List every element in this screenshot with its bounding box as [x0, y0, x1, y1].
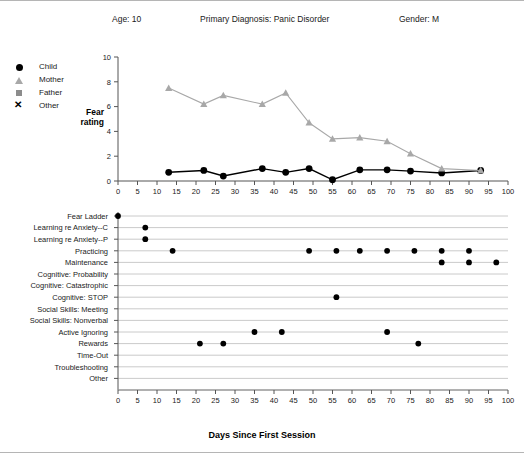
session-point — [415, 341, 421, 347]
x-tick-label: 20 — [192, 396, 200, 405]
x-tick-label: 60 — [348, 396, 356, 405]
session-point — [493, 260, 499, 266]
session-point — [142, 236, 148, 242]
data-point-child — [165, 169, 172, 176]
data-point-child — [220, 173, 227, 180]
session-point — [197, 341, 203, 347]
category-label: Rewards — [78, 339, 108, 348]
bottom-border — [0, 452, 524, 453]
session-point — [252, 329, 258, 335]
data-point-child — [384, 166, 391, 173]
category-label: Learning re Anxiety--C — [33, 223, 108, 232]
x-tick-label: 70 — [387, 187, 395, 196]
session-point — [439, 260, 445, 266]
category-label: Social Skills: Nonverbal — [30, 316, 109, 325]
x-tick-label: 100 — [502, 396, 515, 405]
data-point-child — [282, 169, 289, 176]
x-tick-label: 50 — [309, 187, 317, 196]
x-tick-label: 55 — [328, 396, 336, 405]
session-point — [142, 225, 148, 231]
category-label: Learning re Anxiety--P — [34, 235, 108, 244]
session-point — [439, 248, 445, 254]
series-line-child — [169, 169, 481, 180]
x-tick-label: 85 — [445, 187, 453, 196]
category-label: Cognitive: Probability — [38, 270, 109, 279]
x-tick-label: 25 — [211, 396, 219, 405]
x-tick-label: 0 — [116, 187, 120, 196]
session-point — [170, 248, 176, 254]
session-point — [220, 341, 226, 347]
x-tick-label: 0 — [116, 396, 120, 405]
x-tick-label: 15 — [172, 187, 180, 196]
category-label: Time-Out — [77, 351, 109, 360]
series-line-mother — [169, 88, 481, 170]
x-tick-label: 40 — [270, 396, 278, 405]
category-label: Social Skills: Meeting — [37, 305, 108, 314]
data-point-child — [329, 176, 336, 183]
x-tick-label: 80 — [426, 396, 434, 405]
category-label: Maintenance — [65, 258, 108, 267]
patient-header: Age: 10 Primary Diagnosis: Panic Disorde… — [0, 14, 524, 30]
category-label: Troubleshooting — [54, 363, 108, 372]
x-tick-label: 15 — [172, 396, 180, 405]
category-label: Active Ignoring — [58, 328, 108, 337]
x-tick-label: 85 — [445, 396, 453, 405]
y-tick-label: 10 — [103, 53, 111, 62]
category-label: Cognitive: STOP — [52, 293, 108, 302]
x-tick-label: 95 — [484, 396, 492, 405]
x-tick-label: 50 — [309, 396, 317, 405]
x-tick-label: 10 — [153, 396, 161, 405]
x-tick-label: 45 — [289, 187, 297, 196]
data-point-mother — [200, 101, 207, 107]
chart-page: Age: 10 Primary Diagnosis: Panic Disorde… — [0, 0, 524, 459]
data-point-mother — [220, 92, 227, 98]
session-point — [115, 213, 121, 219]
session-point — [384, 248, 390, 254]
data-point-child — [200, 167, 207, 174]
patient-age: Age: 10 — [112, 14, 141, 24]
session-point — [412, 248, 418, 254]
x-tick-label: 40 — [270, 187, 278, 196]
session-point — [279, 329, 285, 335]
session-content-chart: Fear LadderLearning re Anxiety--CLearnin… — [0, 206, 524, 421]
x-tick-label: 5 — [135, 396, 139, 405]
x-tick-label: 65 — [367, 396, 375, 405]
category-label: Cognitive: Catastrophic — [30, 281, 108, 290]
x-tick-label: 100 — [502, 187, 515, 196]
data-point-child — [259, 165, 266, 172]
session-point — [466, 260, 472, 266]
data-point-child — [356, 166, 363, 173]
x-tick-label: 80 — [426, 187, 434, 196]
y-tick-label: 8 — [107, 78, 111, 87]
session-point — [334, 248, 340, 254]
patient-gender: Gender: M — [399, 14, 439, 24]
x-tick-label: 90 — [465, 187, 473, 196]
x-tick-label: 65 — [367, 187, 375, 196]
x-tick-label: 70 — [387, 396, 395, 405]
x-axis-title: Days Since First Session — [0, 430, 524, 440]
data-point-mother — [282, 89, 289, 95]
session-point — [384, 329, 390, 335]
x-tick-label: 5 — [135, 187, 139, 196]
x-tick-label: 60 — [348, 187, 356, 196]
category-label: Fear Ladder — [67, 212, 108, 221]
x-tick-label: 95 — [484, 187, 492, 196]
session-point — [334, 294, 340, 300]
session-point — [466, 248, 472, 254]
x-tick-label: 35 — [250, 187, 258, 196]
session-point — [306, 248, 312, 254]
x-tick-label: 20 — [192, 187, 200, 196]
data-point-mother — [165, 84, 172, 90]
x-tick-label: 30 — [231, 187, 239, 196]
y-tick-label: 2 — [107, 152, 111, 161]
category-label: Practicing — [75, 247, 108, 256]
top-border — [0, 0, 524, 1]
x-tick-label: 10 — [153, 187, 161, 196]
y-tick-label: 4 — [107, 127, 111, 136]
x-tick-label: 55 — [328, 187, 336, 196]
fear-rating-chart: 0246810051015202530354045505560657075808… — [0, 44, 524, 204]
primary-diagnosis: Primary Diagnosis: Panic Disorder — [200, 14, 329, 24]
x-tick-label: 45 — [289, 396, 297, 405]
x-tick-label: 75 — [406, 396, 414, 405]
data-point-child — [407, 168, 414, 175]
